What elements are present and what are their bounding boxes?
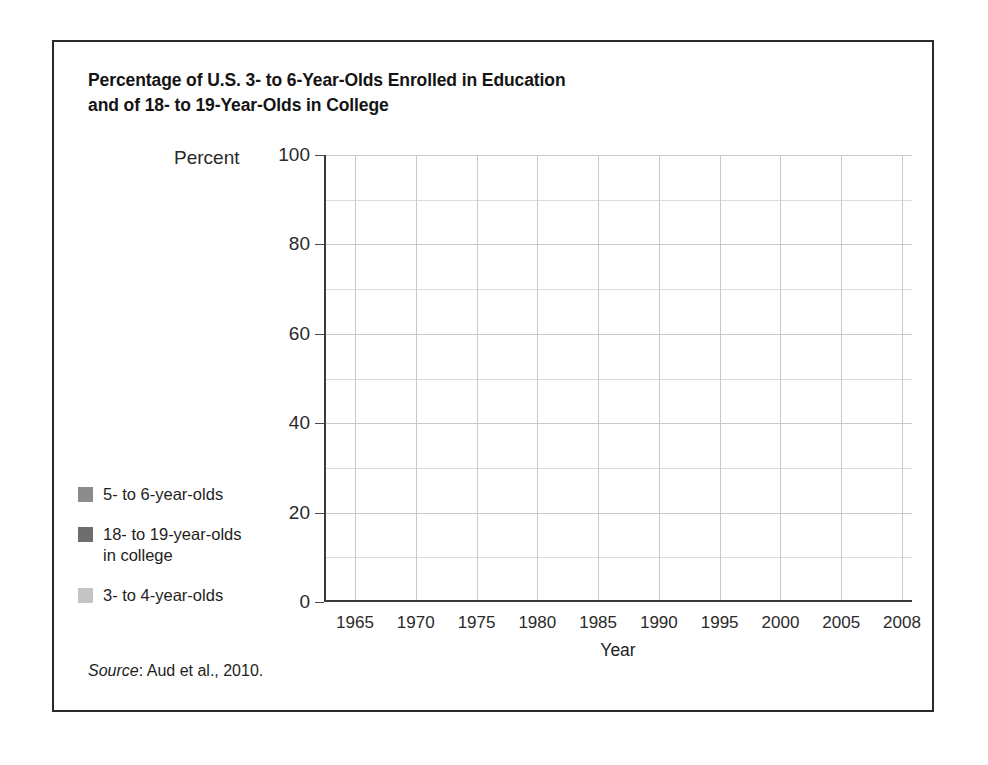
x-tick-label: 1970: [397, 613, 435, 633]
plot-area: 020406080100 196519701975198019851990199…: [324, 155, 912, 602]
y-tick-mark: [315, 423, 324, 424]
chart-legend: 5- to 6-year-olds18- to 19-year-oldsin c…: [78, 484, 308, 625]
figure-frame: Percentage of U.S. 3- to 6-Year-Olds Enr…: [52, 40, 934, 712]
legend-swatch-icon: [78, 588, 93, 603]
chart-title: Percentage of U.S. 3- to 6-Year-Olds Enr…: [88, 68, 848, 118]
legend-label-line-1: 18- to 19-year-olds: [103, 524, 242, 545]
chart-title-line-2: and of 18- to 19-Year-Olds in College: [88, 93, 848, 118]
y-axis-header: Percent: [174, 147, 239, 169]
y-tick-mark: [315, 513, 324, 514]
legend-swatch-icon: [78, 487, 93, 502]
legend-label-line-2: in college: [103, 545, 242, 566]
legend-item[interactable]: 18- to 19-year-oldsin college: [78, 524, 308, 566]
x-tick-label: 1990: [640, 613, 678, 633]
legend-label: 18- to 19-year-oldsin college: [103, 524, 242, 566]
x-tick-label: 1985: [579, 613, 617, 633]
x-axis-line: [324, 600, 912, 602]
gridline-horizontal: [324, 423, 912, 424]
x-tick-label: 1965: [336, 613, 374, 633]
chart-title-line-1: Percentage of U.S. 3- to 6-Year-Olds Enr…: [88, 68, 848, 93]
y-tick-label: 60: [289, 323, 310, 345]
legend-swatch-icon: [78, 527, 93, 542]
legend-label: 5- to 6-year-olds: [103, 484, 223, 505]
gridline-horizontal-minor: [324, 379, 912, 380]
gridline-vertical: [902, 155, 903, 602]
x-tick-label: 1980: [518, 613, 556, 633]
gridline-horizontal-minor: [324, 289, 912, 290]
gridline-vertical: [780, 155, 781, 602]
y-tick-mark: [315, 602, 324, 603]
x-tick-label: 2000: [762, 613, 800, 633]
x-tick-label: 2008: [883, 613, 921, 633]
y-tick-label: 40: [289, 412, 310, 434]
gridline-vertical: [537, 155, 538, 602]
gridline-vertical: [416, 155, 417, 602]
gridline-horizontal: [324, 513, 912, 514]
gridline-horizontal-minor: [324, 468, 912, 469]
y-tick-mark: [315, 334, 324, 335]
y-tick-mark: [315, 155, 324, 156]
y-tick-label: 80: [289, 233, 310, 255]
source-note: Source: Aud et al., 2010.: [88, 662, 263, 680]
source-separator: :: [139, 662, 147, 679]
gridline-vertical: [841, 155, 842, 602]
x-tick-label: 1995: [701, 613, 739, 633]
gridline-horizontal-minor: [324, 557, 912, 558]
y-tick-label: 100: [278, 144, 310, 166]
source-label: Source: [88, 662, 139, 679]
gridline-horizontal: [324, 155, 912, 156]
y-tick-mark: [315, 244, 324, 245]
gridline-vertical: [659, 155, 660, 602]
gridline-vertical: [355, 155, 356, 602]
legend-item[interactable]: 5- to 6-year-olds: [78, 484, 308, 505]
source-citation: Aud et al., 2010.: [147, 662, 264, 679]
gridline-horizontal: [324, 244, 912, 245]
gridline-vertical: [477, 155, 478, 602]
y-axis-line: [324, 155, 326, 602]
gridline-vertical: [598, 155, 599, 602]
x-tick-label: 1975: [458, 613, 496, 633]
x-axis-title: Year: [324, 640, 912, 661]
x-tick-label: 2005: [822, 613, 860, 633]
legend-label: 3- to 4-year-olds: [103, 585, 223, 606]
gridline-horizontal: [324, 334, 912, 335]
gridline-vertical: [720, 155, 721, 602]
gridline-horizontal-minor: [324, 200, 912, 201]
legend-item[interactable]: 3- to 4-year-olds: [78, 585, 308, 606]
